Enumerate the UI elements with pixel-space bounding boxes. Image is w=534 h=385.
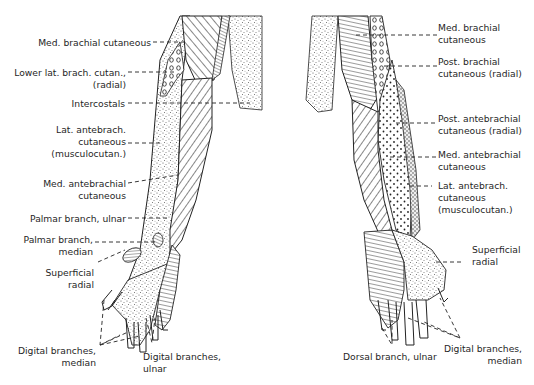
- label-med-brachial-cutaneous: Med. brachial cutaneous: [38, 37, 151, 49]
- label-post-superficial-radial: Superficial radial: [472, 244, 521, 268]
- label-superficial-radial: Superficial radial: [46, 267, 95, 291]
- label-intercostals: Intercostals: [72, 98, 125, 110]
- posterior-arm: [306, 16, 448, 345]
- label-dorsal-branch-ulnar: Dorsal branch, ulnar: [343, 351, 437, 363]
- label-post-digital-branches-median: Digital branches, median: [444, 343, 522, 367]
- label-palmar-branch-median: Palmar branch, median: [24, 234, 93, 258]
- torso-region: [228, 16, 262, 110]
- label-post-lat-antebrach-cutaneous: Lat. antebrach. cutaneous (musculocutan.…: [438, 180, 513, 216]
- region-palmar-branch-ulnar: [153, 233, 163, 247]
- label-post-antebrachial-cutaneous: Post. antebrachial cutaneous (radial): [438, 113, 522, 137]
- label-palmar-branch-ulnar: Palmar branch, ulnar: [30, 213, 126, 225]
- label-post-med-antebrachial-cutaneous: Med. antebrachial cutaneous: [438, 149, 521, 173]
- label-digital-branches-median: Digital branches, median: [18, 345, 96, 369]
- label-med-antebrachial-cutaneous: Med. antebrachial cutaneous: [43, 178, 126, 202]
- cutaneous-nerve-diagram: Med. brachial cutaneous Lower lat. brach…: [0, 0, 534, 385]
- torso-region-posterior: [306, 16, 338, 112]
- leader-post-digital-median: [408, 298, 460, 338]
- anterior-arm: [102, 16, 262, 352]
- label-post-brachial-cutaneous: Post. brachial cutaneous (radial): [438, 56, 522, 80]
- label-lower-lat-brach-cutan: Lower lat. brach. cutan., (radial): [14, 67, 126, 91]
- leader-superficial-radial: [98, 250, 125, 262]
- label-lat-antebrach-cutaneous: Lat. antebrach. cutaneous (musculocutan.…: [51, 124, 126, 160]
- label-post-med-brachial-cutaneous: Med. brachial cutaneous: [438, 22, 500, 46]
- label-digital-branches-ulnar: Digital branches, ulnar: [143, 351, 221, 375]
